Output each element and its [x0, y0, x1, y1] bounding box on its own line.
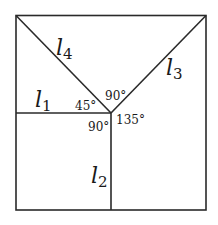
angle-45-label: 45°	[75, 99, 96, 113]
label-l1: l1	[35, 87, 52, 115]
label-l2: l2	[91, 163, 108, 191]
angle-135-label: 135°	[116, 113, 145, 127]
label-l3: l3	[166, 55, 183, 83]
line-l4	[16, 16, 111, 114]
angle-90-top-label: 90°	[105, 89, 126, 103]
label-l4: l4	[56, 35, 73, 63]
geometry-diagram: l1 l2 l3 l4 45° 90° 135° 90°	[0, 0, 218, 225]
angle-90-bottom-label: 90°	[88, 120, 109, 134]
